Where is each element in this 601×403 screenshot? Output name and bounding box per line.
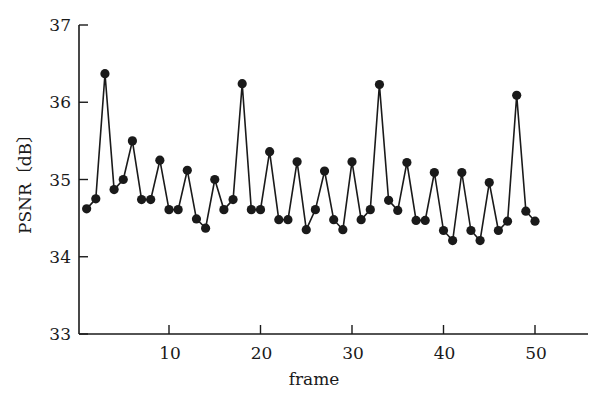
data-point-marker — [439, 226, 448, 235]
data-point-marker — [393, 206, 402, 215]
y-tick-label: 36 — [49, 92, 71, 112]
y-axis-title: PSNR〔dB〕 — [15, 126, 35, 234]
data-point-marker — [320, 166, 329, 175]
psnr-line-chart: 3334353637 1020304050 frame PSNR〔dB〕 — [0, 0, 601, 403]
data-point-marker — [293, 157, 302, 166]
data-point-marker — [494, 226, 503, 235]
data-point-marker — [366, 205, 375, 214]
data-point-marker — [274, 215, 283, 224]
data-point-marker — [91, 194, 100, 203]
data-point-marker — [228, 195, 237, 204]
data-point-marker — [265, 147, 274, 156]
y-tick-label: 34 — [49, 247, 71, 267]
data-point-marker — [283, 215, 292, 224]
data-point-marker — [457, 168, 466, 177]
x-tick-label: 40 — [434, 343, 456, 363]
data-point-marker — [476, 236, 485, 245]
x-tick-label: 50 — [525, 343, 547, 363]
data-point-marker — [347, 157, 356, 166]
data-point-marker — [466, 226, 475, 235]
data-point-marker — [137, 195, 146, 204]
y-tick-label: 33 — [49, 324, 71, 344]
data-point-marker — [302, 225, 311, 234]
data-point-marker — [201, 224, 210, 233]
data-point-marker — [411, 216, 420, 225]
data-point-marker — [219, 205, 228, 214]
x-tick-label: 10 — [159, 343, 181, 363]
data-point-marker — [375, 80, 384, 89]
y-tick-label: 37 — [49, 15, 71, 35]
data-point-marker — [512, 91, 521, 100]
data-point-marker — [155, 156, 164, 165]
x-axis-ticks: 1020304050 — [159, 325, 547, 363]
data-point-marker — [210, 175, 219, 184]
data-point-marker — [311, 205, 320, 214]
data-point-marker — [384, 196, 393, 205]
data-point-marker — [357, 215, 366, 224]
x-tick-label: 30 — [342, 343, 364, 363]
data-point-marker — [128, 136, 137, 145]
data-point-marker — [503, 217, 512, 226]
data-point-marker — [238, 79, 247, 88]
data-point-marker — [448, 236, 457, 245]
y-tick-label: 35 — [49, 170, 71, 190]
data-point-marker — [521, 207, 530, 216]
data-point-marker — [247, 205, 256, 214]
psnr-series-line — [87, 74, 535, 241]
data-point-marker — [256, 205, 265, 214]
data-point-marker — [530, 217, 539, 226]
data-point-marker — [146, 195, 155, 204]
data-point-marker — [485, 178, 494, 187]
data-point-marker — [338, 225, 347, 234]
data-point-marker — [192, 214, 201, 223]
y-axis-ticks: 3334353637 — [49, 15, 88, 344]
data-point-marker — [421, 216, 430, 225]
data-point-marker — [100, 69, 109, 78]
data-point-marker — [82, 204, 91, 213]
data-point-marker — [164, 205, 173, 214]
data-point-marker — [183, 166, 192, 175]
x-tick-label: 20 — [251, 343, 273, 363]
x-axis-title: frame — [289, 369, 340, 389]
data-point-marker — [430, 168, 439, 177]
data-point-marker — [402, 158, 411, 167]
data-point-marker — [110, 185, 119, 194]
data-point-marker — [119, 175, 128, 184]
data-point-marker — [174, 205, 183, 214]
data-point-marker — [329, 215, 338, 224]
